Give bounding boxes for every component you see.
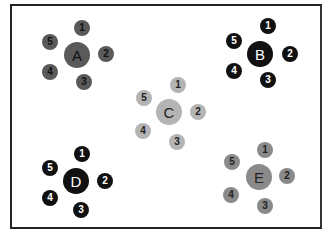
satellite-node-e-4: 4 (223, 187, 239, 203)
satellite-node-a-5: 5 (42, 34, 58, 50)
satellite-node-d-5: 5 (42, 160, 58, 176)
satellite-node-c-1: 1 (170, 77, 186, 93)
satellite-node-a-3: 3 (76, 74, 92, 90)
satellite-node-b-2: 2 (282, 46, 298, 62)
hub-node-e: E (246, 164, 272, 190)
satellite-node-a-1: 1 (74, 20, 90, 36)
hub-node-c: C (156, 99, 182, 125)
satellite-node-d-2: 2 (97, 173, 113, 189)
satellite-node-b-1: 1 (260, 18, 276, 34)
satellite-node-b-5: 5 (226, 33, 242, 49)
satellite-node-c-5: 5 (136, 90, 152, 106)
hub-node-a: A (64, 42, 90, 68)
satellite-node-c-3: 3 (169, 134, 185, 150)
satellite-node-c-4: 4 (135, 123, 151, 139)
satellite-node-a-4: 4 (42, 64, 58, 80)
diagram-canvas: 12345A12345B12345C12345D12345E (0, 0, 330, 240)
satellite-node-b-4: 4 (226, 63, 242, 79)
satellite-node-a-2: 2 (98, 46, 114, 62)
satellite-node-e-5: 5 (224, 154, 240, 170)
satellite-node-d-3: 3 (73, 202, 89, 218)
satellite-node-b-3: 3 (260, 72, 276, 88)
satellite-node-c-2: 2 (190, 104, 206, 120)
hub-node-d: D (63, 168, 89, 194)
satellite-node-d-1: 1 (74, 146, 90, 162)
satellite-node-e-1: 1 (257, 142, 273, 158)
satellite-node-e-3: 3 (257, 198, 273, 214)
satellite-node-e-2: 2 (279, 168, 295, 184)
hub-node-b: B (247, 41, 273, 67)
satellite-node-d-4: 4 (42, 190, 58, 206)
